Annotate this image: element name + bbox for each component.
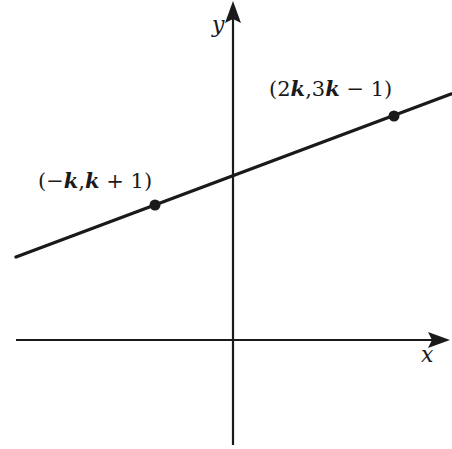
x-axis-label: x xyxy=(421,342,433,367)
left-point-label-part: (− xyxy=(38,169,64,193)
right-point-label-part: − 1) xyxy=(340,77,393,101)
y-axis-label: y xyxy=(212,12,224,37)
right-point-label-var: k xyxy=(325,76,340,101)
right-point-label-var: k xyxy=(291,76,306,101)
left-point-label-part: + 1) xyxy=(100,169,153,193)
coordinate-diagram xyxy=(0,0,452,449)
right-point-label-part: (2 xyxy=(269,77,291,101)
left-point-label: (−k,k + 1) xyxy=(38,168,152,193)
left-point-label-var: k xyxy=(85,168,100,193)
left-point-label-var: k xyxy=(64,168,79,193)
left-point-marker xyxy=(150,200,161,211)
right-point-label: (2k,3k − 1) xyxy=(269,76,392,101)
right-point-label-part: ,3 xyxy=(305,77,325,101)
right-point-marker xyxy=(389,111,400,122)
